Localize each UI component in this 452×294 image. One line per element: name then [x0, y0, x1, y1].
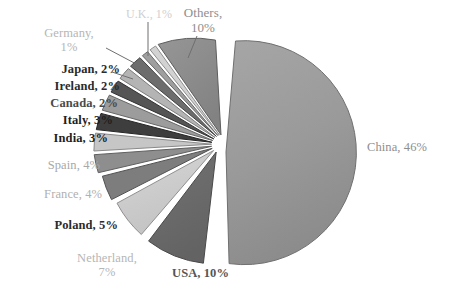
label-japan: Japan, 2%	[8, 62, 120, 76]
label-france: France, 4%	[0, 187, 102, 201]
label-ireland: Ireland, 2%	[0, 79, 120, 93]
label-others: Others, 10%	[158, 6, 248, 35]
label-canada: Canada, 2%	[0, 96, 118, 110]
label-usa: USA, 10%	[172, 266, 282, 280]
pie-slices	[94, 38, 356, 264]
label-germany: Germany, 1%	[28, 26, 110, 54]
slice-china[interactable]	[226, 41, 356, 265]
pie-chart: U.K., 1% Others, 10% Germany, 1% Japan, …	[0, 0, 452, 294]
label-poland: Poland, 5%	[0, 218, 118, 232]
label-italy: Italy, 3%	[6, 113, 113, 127]
label-netherland: Netherland, 7%	[52, 251, 162, 279]
label-india: India, 3%	[4, 131, 108, 145]
label-china: China, 46%	[367, 140, 452, 154]
label-spain: Spain, 4%	[4, 158, 100, 172]
